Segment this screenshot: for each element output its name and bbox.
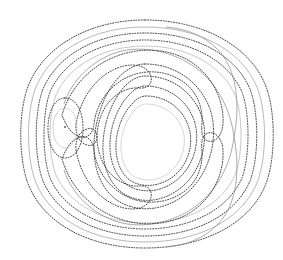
contour-plot-figure (0, 0, 283, 260)
plot-background (0, 0, 283, 260)
left-extremum-marker-dot (64, 126, 66, 128)
contour-plot-canvas (0, 0, 283, 260)
